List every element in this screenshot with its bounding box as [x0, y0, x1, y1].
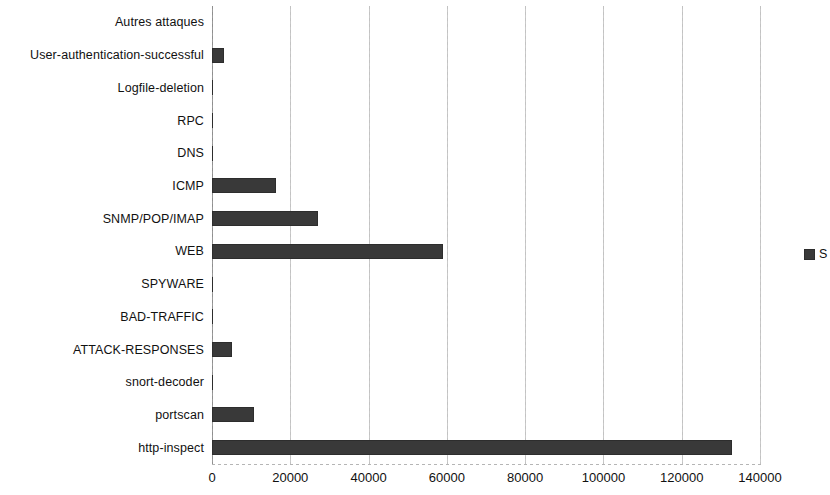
y-axis-label: Logfile-deletion — [0, 81, 204, 95]
bar — [212, 244, 443, 259]
x-axis-tick-labels: 020000400006000080000100000120000140000 — [0, 470, 830, 492]
x-axis-tick-label: 120000 — [660, 470, 703, 486]
bar — [212, 113, 213, 128]
y-axis-label: SPYWARE — [0, 277, 204, 291]
bar — [212, 342, 232, 357]
bar — [212, 440, 732, 455]
bar — [212, 178, 276, 193]
bar — [212, 407, 254, 422]
x-axis-tick-label: 80000 — [507, 470, 543, 486]
bar-row — [212, 407, 760, 422]
bar — [212, 48, 224, 63]
y-axis-label: DNS — [0, 146, 204, 160]
bar — [212, 375, 213, 390]
y-axis-label: RPC — [0, 114, 204, 128]
bar-rows — [212, 6, 760, 464]
bar-row — [212, 375, 760, 390]
bar — [212, 211, 318, 226]
bar-row — [212, 244, 760, 259]
bar — [212, 277, 213, 292]
y-axis-category-labels: Autres attaquesUser-authentication-succe… — [0, 6, 204, 464]
bar-chart: Autres attaquesUser-authentication-succe… — [0, 0, 830, 495]
y-axis-label: portscan — [0, 408, 204, 422]
bar-row — [212, 440, 760, 455]
y-axis-label: WEB — [0, 244, 204, 258]
bar-row — [212, 277, 760, 292]
x-axis-tick-label: 20000 — [272, 470, 308, 486]
chart-legend: S — [804, 248, 830, 261]
bar-row — [212, 309, 760, 324]
plot-area — [212, 6, 760, 464]
x-axis-tick-label: 100000 — [582, 470, 625, 486]
bar-row — [212, 342, 760, 357]
y-axis-label: BAD-TRAFFIC — [0, 310, 204, 324]
legend-label: S — [819, 248, 827, 261]
bar-row — [212, 211, 760, 226]
bar-row — [212, 146, 760, 161]
bar — [212, 309, 213, 324]
y-axis-label: http-inspect — [0, 441, 204, 455]
bar-row — [212, 15, 760, 30]
gridline-140000 — [760, 6, 761, 464]
bar-row — [212, 48, 760, 63]
bar — [212, 146, 213, 161]
y-axis-label: ICMP — [0, 179, 204, 193]
bar — [212, 80, 213, 95]
y-axis-label: SNMP/POP/IMAP — [0, 212, 204, 226]
y-axis-label: ATTACK-RESPONSES — [0, 343, 204, 357]
x-axis-tick-label: 0 — [208, 470, 215, 486]
bar-row — [212, 113, 760, 128]
y-axis-label: snort-decoder — [0, 375, 204, 389]
legend-swatch-icon — [804, 249, 815, 260]
x-axis-tick-label: 140000 — [738, 470, 781, 486]
bar-row — [212, 178, 760, 193]
x-axis-line — [212, 464, 761, 465]
x-axis-tick-label: 60000 — [429, 470, 465, 486]
y-axis-label: User-authentication-successful — [0, 48, 204, 62]
y-axis-label: Autres attaques — [0, 15, 204, 29]
bar-row — [212, 80, 760, 95]
x-axis-tick-label: 40000 — [350, 470, 386, 486]
